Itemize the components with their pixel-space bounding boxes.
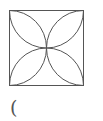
- option-label: (: [10, 98, 17, 117]
